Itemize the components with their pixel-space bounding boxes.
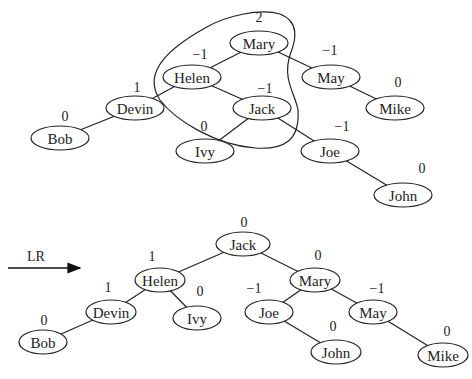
tree-node-joe: Joe−1 — [245, 281, 293, 325]
node-label: Bob — [30, 335, 55, 351]
balance-factor-label: 1 — [149, 249, 156, 264]
balance-factor-label: 0 — [315, 248, 322, 263]
balance-factor-label: −1 — [335, 119, 350, 134]
node-label: John — [389, 188, 418, 204]
node-label: Devin — [117, 101, 154, 117]
rotation-type-label: LR — [27, 249, 46, 264]
balance-factor-label: −1 — [193, 47, 208, 62]
tree-node-mike: Mike0 — [366, 75, 424, 121]
tree-node-devin: Devin1 — [86, 280, 136, 325]
node-label: Jack — [249, 101, 276, 117]
node-label: Mike — [427, 348, 459, 364]
node-label: Jack — [230, 237, 257, 253]
bottom-tree-nodes: Jack0Helen1Mary0Devin1Ivy0Joe−1May−1Bob0… — [19, 215, 468, 368]
node-label: Mary — [299, 273, 332, 289]
node-label: Ivy — [195, 144, 215, 160]
balance-factor-label: 0 — [444, 324, 451, 339]
balance-factor-label: 0 — [419, 161, 426, 176]
node-label: May — [317, 70, 345, 86]
tree-node-john: John0 — [374, 161, 432, 208]
tree-node-may: May−1 — [302, 43, 360, 90]
balance-factor-label: 1 — [134, 80, 141, 95]
balance-factor-label: 0 — [41, 313, 48, 328]
balance-factor-label: −1 — [370, 281, 385, 296]
node-label: May — [359, 305, 387, 321]
tree-node-devin: Devin1 — [106, 80, 164, 121]
node-label: Ivy — [187, 311, 207, 327]
balance-factor-label: 0 — [330, 319, 337, 334]
node-label: Bob — [47, 131, 72, 147]
balance-factor-label: 0 — [197, 284, 204, 299]
tree-node-mike: Mike0 — [418, 324, 468, 368]
balance-factor-label: 2 — [256, 10, 263, 25]
node-label: Mike — [379, 101, 411, 117]
balance-factor-label: 0 — [201, 119, 208, 134]
tree-node-ivy: Ivy0 — [173, 284, 221, 331]
balance-factor-label: −1 — [258, 81, 273, 96]
tree-node-mary: Mary2 — [230, 10, 288, 56]
top-tree-edges — [60, 43, 403, 195]
tree-node-helen: Helen1 — [135, 249, 185, 293]
bottom-tree-balanced: Jack0Helen1Mary0Devin1Ivy0Joe−1May−1Bob0… — [19, 215, 468, 368]
tree-node-joe: Joe−1 — [301, 119, 359, 164]
node-label: Joe — [259, 305, 279, 321]
top-tree-unbalanced: Mary2Helen−1May−1Devin1Jack−1Mike0Bob0Iv… — [31, 10, 432, 208]
bottom-tree-edges — [43, 244, 443, 355]
tree-node-jack: Jack−1 — [233, 81, 291, 121]
node-label: John — [322, 345, 351, 361]
tree-node-mary: Mary0 — [290, 248, 340, 293]
tree-node-bob: Bob0 — [19, 313, 67, 355]
tree-node-bob: Bob0 — [31, 109, 89, 151]
balance-factor-label: 1 — [105, 280, 112, 295]
tree-node-jack: Jack0 — [216, 215, 270, 257]
node-label: Helen — [174, 70, 210, 86]
avl-rotation-diagram: Mary2Helen−1May−1Devin1Jack−1Mike0Bob0Iv… — [0, 0, 472, 379]
tree-node-ivy: Ivy0 — [176, 119, 234, 164]
tree-node-helen: Helen−1 — [163, 47, 221, 90]
top-tree-nodes: Mary2Helen−1May−1Devin1Jack−1Mike0Bob0Iv… — [31, 10, 432, 208]
node-label: Helen — [142, 273, 178, 289]
node-label: Joe — [320, 144, 340, 160]
balance-factor-label: 0 — [241, 215, 248, 230]
node-label: Mary — [243, 36, 276, 52]
balance-factor-label: 0 — [62, 109, 69, 124]
balance-factor-label: −1 — [247, 281, 262, 296]
balance-factor-label: −1 — [323, 43, 338, 58]
rotation-arrow: LR — [8, 249, 80, 269]
balance-factor-label: 0 — [395, 75, 402, 90]
node-label: Devin — [93, 305, 130, 321]
